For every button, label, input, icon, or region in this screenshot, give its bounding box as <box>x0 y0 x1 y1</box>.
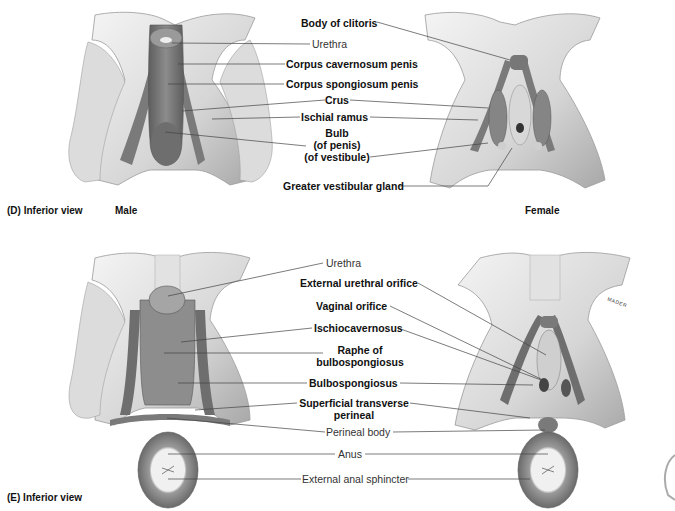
label-urethra-d: Urethra <box>312 38 347 50</box>
label-raphe-of-bulbospongiosus: Raphe of bulbospongiosus <box>305 344 415 368</box>
label-superficial-transverse-perineal: Superficial transverse perineal <box>298 397 410 421</box>
label-vaginal-orifice: Vaginal orifice <box>316 300 387 312</box>
label-corpus-cavernosum: Corpus cavernosum penis <box>286 58 418 70</box>
caption-panel-e: (E) Inferior view <box>7 492 82 503</box>
label-female: Female <box>525 205 559 216</box>
anatomy-figure: Body of clitoris Urethra Corpus cavernos… <box>0 0 675 511</box>
label-perineal-body: Perineal body <box>326 426 390 438</box>
label-bulb-line2: (of penis) <box>302 139 372 151</box>
label-superficial-line2: perineal <box>298 409 410 421</box>
label-raphe-line2: bulbospongiosus <box>305 356 415 368</box>
label-body-of-clitoris: Body of clitoris <box>301 17 377 29</box>
label-anus: Anus <box>338 448 362 460</box>
label-bulb-line1: Bulb <box>302 127 372 139</box>
label-bulb: Bulb (of penis) (of vestibule) <box>302 127 372 163</box>
label-male: Male <box>115 205 137 216</box>
label-bulbospongiosus: Bulbospongiosus <box>309 377 398 389</box>
panel-e-male-illustration <box>69 252 250 508</box>
label-crus: Crus <box>325 94 349 106</box>
label-corpus-spongiosum: Corpus spongiosum penis <box>286 78 418 90</box>
label-superficial-line1: Superficial transverse <box>298 397 410 409</box>
panel-d-male-illustration <box>69 12 273 185</box>
label-ischial-ramus: Ischial ramus <box>301 111 368 123</box>
label-greater-vestibular-gland: Greater vestibular gland <box>283 180 404 192</box>
label-urethra-e: Urethra <box>326 257 361 269</box>
label-external-urethral-orifice: External urethral orifice <box>300 277 418 289</box>
label-external-anal-sphincter: External anal sphincter <box>302 473 409 485</box>
label-bulb-line3: (of vestibule) <box>302 151 372 163</box>
caption-panel-d: (D) Inferior view <box>7 205 83 216</box>
panel-d-female-illustration <box>425 12 605 188</box>
label-ischiocavernosus: Ischiocavernosus <box>314 322 403 334</box>
label-raphe-line1: Raphe of <box>305 344 415 356</box>
partial-figure-edge <box>665 455 675 500</box>
